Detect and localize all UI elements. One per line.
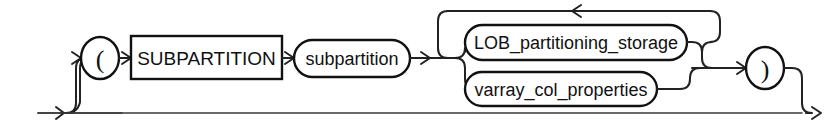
branch-merge-lower-rail [657, 68, 700, 89]
exit-descender-rail [784, 68, 812, 113]
lob-partitioning-storage-label: LOB_partitioning_storage [474, 33, 678, 54]
branch-merge-upper-rail [687, 42, 712, 68]
loop-left-rail [438, 11, 452, 58]
subpartition-name-label: subpartition [305, 49, 398, 69]
railroad-diagram: ( SUBPARTITION subpartition LOB_partitio… [0, 0, 836, 134]
varray-col-properties-label: varray_col_properties [474, 80, 647, 101]
open-paren-arrow-icon [72, 52, 81, 64]
subpartition-keyword-label: SUBPARTITION [137, 48, 276, 69]
syntax-diagram-canvas: ( SUBPARTITION subpartition LOB_partitio… [0, 0, 836, 134]
close-paren-label: ) [761, 55, 770, 84]
open-paren-label: ( [96, 45, 105, 74]
exit-arrow-icon [812, 107, 821, 119]
loop-right-rail [702, 11, 720, 58]
